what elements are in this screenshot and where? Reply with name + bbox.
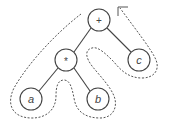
node-c-label: c (136, 54, 142, 66)
expression-tree-diagram: + * c a b (0, 0, 169, 126)
node-b: b (87, 88, 109, 110)
node-plus-label: + (96, 15, 102, 26)
tree-edges (39, 28, 131, 91)
node-c: c (128, 49, 150, 71)
node-plus: + (88, 9, 110, 31)
edge-plus-times (74, 28, 91, 52)
node-a-label: a (28, 93, 34, 105)
edge-times-b (74, 68, 90, 91)
tree-svg: + * c a b (0, 0, 169, 126)
node-a: a (20, 88, 42, 110)
node-times: * (55, 49, 77, 71)
node-times-label: * (64, 56, 68, 67)
edge-plus-c (107, 28, 131, 52)
node-b-label: b (95, 93, 101, 105)
edge-times-a (39, 68, 58, 91)
